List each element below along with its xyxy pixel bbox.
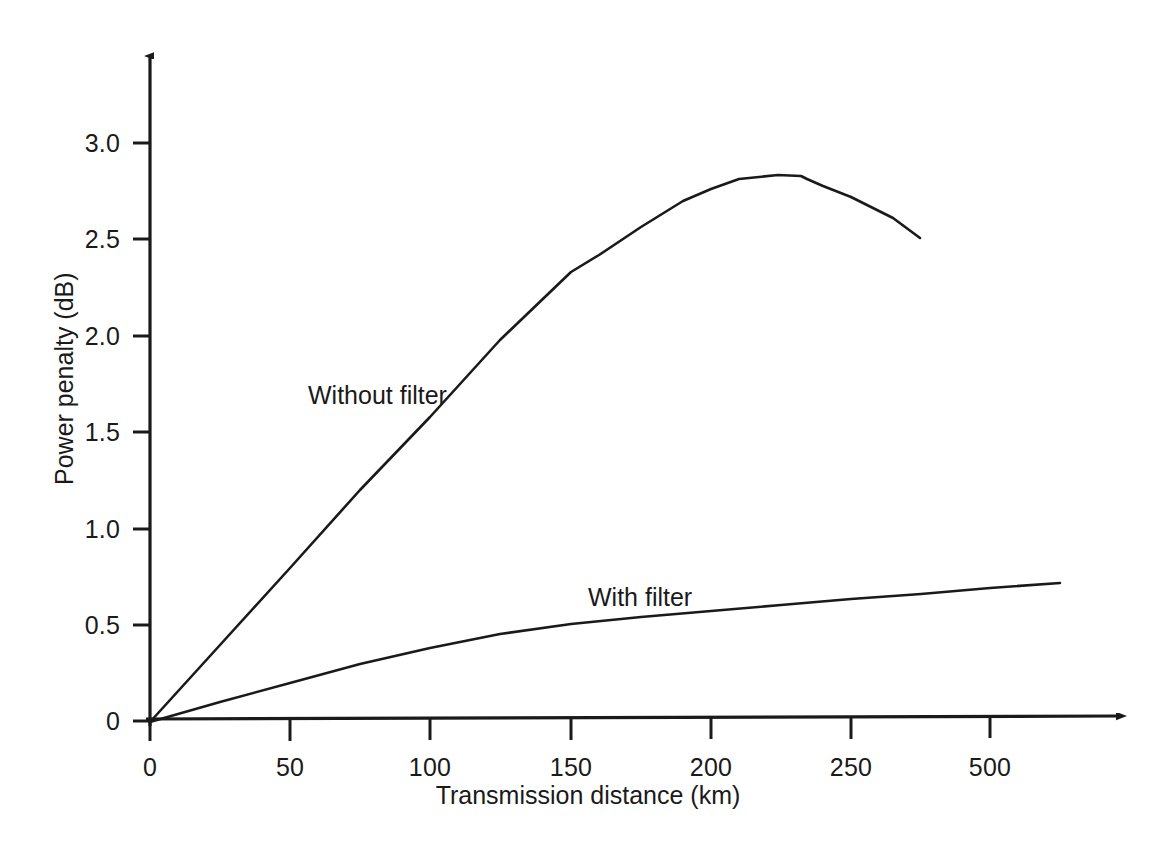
series-line-without-filter (150, 175, 920, 722)
figure-canvas: 3.0 2.5 2.0 1.5 1.0 0.5 0 0 50 100 150 2… (0, 0, 1176, 842)
x-tick-label-50: 50 (250, 755, 330, 780)
y-tick-label-3-0: 3.0 (55, 131, 120, 156)
x-axis-line (146, 716, 1118, 719)
y-tick-label-2-5: 2.5 (55, 227, 120, 252)
y-axis-ticks (133, 143, 151, 721)
x-axis-title: Transmission distance (km) (0, 783, 1176, 808)
y-tick-label-0-5: 0.5 (55, 613, 120, 638)
x-tick-label-0: 0 (110, 755, 190, 780)
chart-plot-area (0, 0, 1176, 842)
x-tick-label-100: 100 (390, 755, 470, 780)
series-annotation-with-filter: With filter (588, 585, 692, 610)
series-annotation-without-filter: Without filter (308, 383, 447, 408)
x-tick-label-500: 500 (950, 755, 1030, 780)
y-axis-title: Power penalty (dB) (52, 272, 77, 485)
y-tick-label-1-0: 1.0 (55, 517, 120, 542)
y-tick-label-0: 0 (55, 709, 120, 734)
x-tick-label-200: 200 (671, 755, 751, 780)
x-tick-label-150: 150 (531, 755, 611, 780)
x-tick-label-250: 250 (811, 755, 891, 780)
